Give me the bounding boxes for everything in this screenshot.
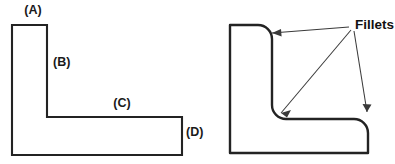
callout-c-text: (C) [113, 96, 130, 110]
callout-label-d: (D) [186, 125, 203, 139]
leader-line-bottom-right-fillet [354, 31, 367, 112]
leader-line-inner-fillet [281, 30, 351, 113]
fillets-label: Fillets [355, 17, 394, 32]
callout-label-b: (B) [53, 55, 70, 69]
callout-d-text: (D) [186, 125, 203, 139]
callout-a-text: (A) [24, 3, 41, 17]
callout-label-a: (A) [24, 3, 41, 17]
leader-arrowhead-bottom-right-fillet [363, 104, 372, 112]
left-figure-group: (A) (B) (C) (D) [12, 3, 203, 155]
callout-label-c: (C) [113, 96, 130, 110]
filleted-l-bracket-outline [230, 25, 368, 153]
leader-arrowhead-top-right-fillet [272, 29, 282, 37]
diagram-canvas: (A) (B) (C) (D) Fillets [0, 0, 395, 164]
right-figure-group: Fillets [230, 17, 394, 153]
sharp-corner-l-bracket-outline [12, 25, 182, 155]
callout-b-text: (B) [53, 55, 70, 69]
fillet-comparison-diagram: (A) (B) (C) (D) Fillets [0, 0, 395, 164]
leader-line-top-right-fillet [272, 27, 349, 33]
fillets-label-text: Fillets [355, 17, 394, 32]
